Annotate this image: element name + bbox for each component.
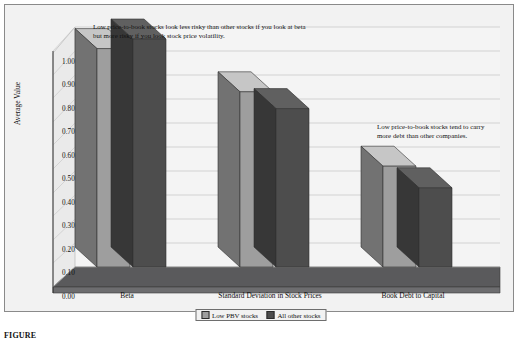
legend-label-low-pbv: Low PBV stocks — [212, 312, 258, 319]
y-tick-label: 0.60 — [62, 152, 75, 160]
x-tick-label-bookdebt: Book Debt to Capital — [381, 291, 444, 300]
bar-1-1-side — [254, 89, 276, 267]
chart-frame: 1.00 0.90 0.80 0.70 0.60 0.50 0.40 0.30 … — [4, 4, 514, 312]
legend-item-all-other[interactable]: All other stocks — [267, 311, 321, 319]
legend-item-low-pbv[interactable]: Low PBV stocks — [202, 311, 258, 319]
legend-swatch-all-other — [267, 311, 275, 319]
x-tick-label-beta: Beta — [120, 291, 134, 300]
bar-2-0-side — [361, 146, 383, 267]
annotation-debt-note: Low price-to-book stocks tend to carry m… — [377, 122, 489, 140]
bar-2-1-front — [419, 188, 452, 267]
bar-0-1-side — [111, 19, 133, 267]
bar-0-1-front — [133, 39, 166, 267]
y-tick-label: 0.10 — [62, 269, 75, 277]
y-tick-label: 0.90 — [62, 81, 75, 89]
y-tick-label: 1.00 — [62, 58, 75, 66]
annotation-risk-note: Low price-to-book stocks look less risky… — [93, 22, 315, 40]
y-tick-label: 0.80 — [62, 105, 75, 113]
figure-caption: FIGURE — [4, 331, 36, 340]
legend-label-all-other: All other stocks — [277, 312, 320, 319]
y-axis: 1.00 0.90 0.80 0.70 0.60 0.50 0.40 0.30 … — [53, 19, 79, 293]
y-tick-label: 0.40 — [62, 199, 75, 207]
y-tick-label: 0.30 — [62, 222, 75, 230]
y-axis-title: Average Value — [13, 82, 22, 125]
legend-swatch-low-pbv — [202, 311, 210, 319]
y-tick-label: 0.70 — [62, 128, 75, 136]
y-tick-label: 0.50 — [62, 175, 75, 183]
chart-3d-scene — [5, 5, 515, 313]
x-axis: Beta Standard Deviation in Stock Prices … — [5, 291, 515, 305]
x-tick-label-stddev: Standard Deviation in Stock Prices — [218, 291, 321, 300]
plot-floor — [53, 267, 500, 287]
chart-legend: Low PBV stocks All other stocks — [196, 309, 327, 321]
bar-1-0-side — [218, 72, 240, 267]
y-tick-label: 0.20 — [62, 246, 75, 254]
figure-root: 1.00 0.90 0.80 0.70 0.60 0.50 0.40 0.30 … — [0, 0, 522, 345]
bar-1-1-front — [276, 109, 309, 267]
